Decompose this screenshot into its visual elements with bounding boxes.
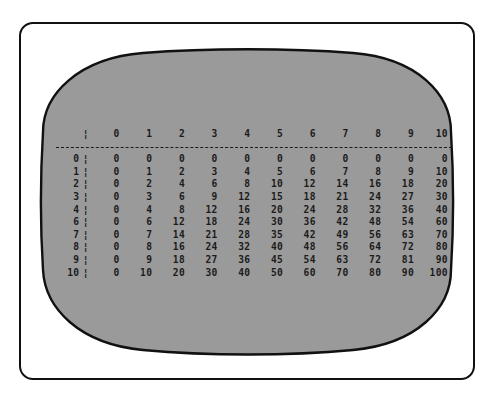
crt-screen-shape — [19, 22, 475, 380]
crt-screen — [19, 22, 475, 380]
screenshot-root: ¦ 0 1 2 3 4 5 6 7 8 9 10 — [0, 0, 496, 396]
